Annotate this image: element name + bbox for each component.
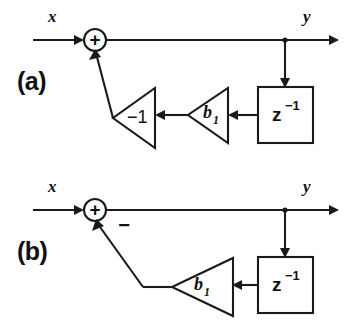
panel-a-gain-to-inverter-arrowhead: [155, 110, 165, 120]
panel-b-label: (b): [17, 237, 48, 265]
panel-b-unit-delay-label: z: [272, 274, 282, 295]
panel-a-output-arrowhead: [329, 35, 339, 45]
panel-b-feedback-minus-sign: −: [118, 214, 130, 236]
panel-b-unit-delay-block: [258, 257, 313, 313]
panel-a-label: (a): [17, 67, 46, 95]
panel-b-unit-delay-exponent: −1: [285, 268, 300, 283]
figure-container: (a) x y + z −1: [0, 0, 348, 331]
panel-a-coefficient-gain-subscript: 1: [213, 113, 219, 127]
panel-a-input-arrowhead: [74, 35, 84, 45]
panel-b-input-arrowhead: [74, 205, 84, 215]
panel-b-adder-plus-sign: +: [89, 199, 100, 220]
panel-a-unit-delay-exponent: −1: [285, 98, 300, 113]
panel-a: (a) x y + z −1: [17, 7, 339, 148]
panel-b-output-arrowhead: [329, 205, 339, 215]
panel-a-coefficient-gain-label: b: [203, 102, 212, 122]
panel-a-input-label: x: [47, 7, 57, 26]
panel-b-coefficient-gain-subscript: 1: [204, 285, 210, 299]
panel-a-inverter-label: −1: [127, 107, 148, 127]
panel-b-coefficient-gain-label: b: [194, 274, 203, 294]
panel-b-input-label: x: [47, 177, 57, 196]
panel-a-output-label: y: [301, 7, 311, 26]
panel-a-unit-delay-label: z: [272, 104, 282, 125]
panel-b-output-label: y: [301, 177, 311, 196]
panel-a-unit-delay-block: [258, 87, 313, 143]
panel-a-feedback-line: [97, 57, 113, 118]
panel-a-adder-plus-sign: +: [89, 29, 100, 50]
panel-b: (b) x y + z −1: [17, 177, 339, 316]
block-diagram-svg: (a) x y + z −1: [0, 0, 348, 331]
panel-a-delay-to-gain-arrowhead: [228, 110, 238, 120]
